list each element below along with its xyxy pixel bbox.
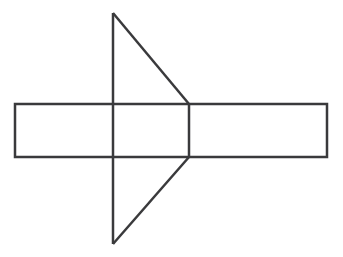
- figure-canvas: [0, 0, 343, 257]
- geometric-figure-svg: [0, 0, 343, 257]
- horizontal-rectangle: [15, 104, 327, 157]
- triangle-upper-slant-line: [113, 13, 189, 104]
- triangle-lower-slant-line: [113, 157, 189, 244]
